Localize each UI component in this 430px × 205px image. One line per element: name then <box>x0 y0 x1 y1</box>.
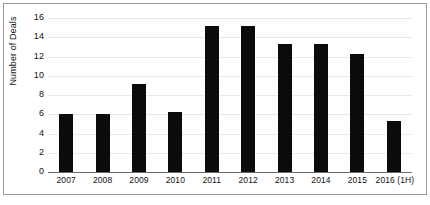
y-tick-label: 6 <box>4 109 44 118</box>
bar <box>387 121 401 172</box>
y-tick-label: 4 <box>4 129 44 138</box>
x-tick-label: 2010 <box>157 175 193 185</box>
x-tick-label: 2013 <box>266 175 302 185</box>
y-tick-label: 12 <box>4 52 44 61</box>
bar <box>168 112 182 172</box>
y-tick-label: 10 <box>4 71 44 80</box>
bar-slot <box>303 18 339 172</box>
bar <box>59 114 73 172</box>
bar-chart-figure: Number of Deals 0246810121416 2007200820… <box>0 0 430 205</box>
x-tick-label: 2015 <box>339 175 375 185</box>
bar <box>314 44 328 172</box>
x-tick-label: 2016 (1H) <box>376 175 412 185</box>
x-tick-label: 2012 <box>230 175 266 185</box>
bar-slot <box>266 18 302 172</box>
bar <box>278 44 292 172</box>
bars-layer <box>48 18 412 172</box>
y-tick-label: 2 <box>4 148 44 157</box>
y-tick-label: 0 <box>4 167 44 176</box>
bar-slot <box>230 18 266 172</box>
bar <box>350 54 364 172</box>
bar-slot <box>339 18 375 172</box>
y-tick-label: 8 <box>4 90 44 99</box>
bar <box>96 114 110 172</box>
x-axis-tick-labels: 2007200820092010201120122013201420152016… <box>48 175 412 189</box>
x-tick-label: 2011 <box>194 175 230 185</box>
x-tick-label: 2009 <box>121 175 157 185</box>
bar <box>205 26 219 172</box>
bar <box>132 84 146 172</box>
y-tick-label: 16 <box>4 13 44 22</box>
y-tick-label: 14 <box>4 32 44 41</box>
x-tick-label: 2014 <box>303 175 339 185</box>
bar-slot <box>121 18 157 172</box>
x-axis-baseline <box>48 172 412 173</box>
bar-slot <box>48 18 84 172</box>
bar-slot <box>157 18 193 172</box>
x-tick-label: 2007 <box>48 175 84 185</box>
bar-slot <box>194 18 230 172</box>
bar <box>241 26 255 172</box>
bar-slot <box>376 18 412 172</box>
x-tick-label: 2008 <box>84 175 120 185</box>
bar-slot <box>84 18 120 172</box>
y-axis-tick-labels: 0246810121416 <box>0 18 44 172</box>
